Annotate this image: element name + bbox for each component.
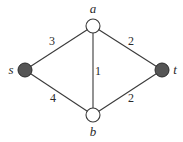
weight-s-a: 3: [49, 34, 55, 48]
edge-s-b: [25, 70, 93, 115]
weight-s-b: 4: [50, 91, 56, 105]
label-s: s: [8, 62, 13, 77]
node-b: [86, 108, 100, 122]
label-t: t: [173, 62, 177, 77]
label-b: b: [90, 124, 97, 139]
edges: [25, 26, 162, 115]
label-a: a: [90, 1, 97, 16]
weight-b-t: 2: [128, 91, 134, 105]
node-t: [155, 63, 169, 77]
node-a: [86, 19, 100, 33]
edge-a-t: [93, 26, 162, 70]
graph-diagram: 3 2 1 4 2 s a b t: [0, 0, 183, 142]
edge-s-a: [25, 26, 93, 70]
node-s: [18, 63, 32, 77]
weight-a-t: 2: [128, 34, 134, 48]
weight-a-b: 1: [95, 64, 101, 78]
